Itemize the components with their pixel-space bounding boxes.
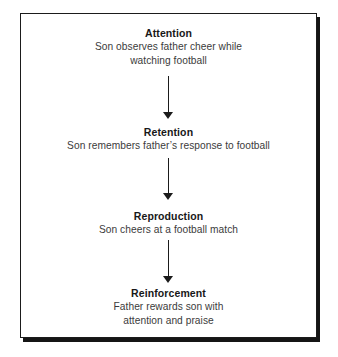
frame-shadow-right (317, 17, 320, 341)
flow-step-retention: Retention Son remembers father’s respons… (22, 126, 315, 153)
arrow-shaft (168, 240, 170, 277)
flow-step-reinforcement: Reinforcement Father rewards son with at… (22, 287, 315, 327)
arrow-shaft (168, 76, 170, 113)
arrow-head (163, 276, 173, 283)
flow-step-reproduction-title: Reproduction (22, 210, 315, 223)
down-arrow-icon-3 (163, 240, 174, 284)
frame-shadow-bottom (23, 338, 320, 342)
flow-step-attention-title: Attention (22, 27, 315, 40)
flow-step-reinforcement-line-1: Father rewards son with (22, 300, 315, 314)
down-arrow-icon-1 (163, 76, 174, 120)
flow-step-attention-line-1: Son observes father cheer while (22, 40, 315, 54)
flow-step-attention-line-2: watching football (22, 54, 315, 68)
diagram-canvas: Attention Son observes father cheer whil… (0, 0, 338, 357)
arrow-head (163, 193, 173, 200)
flow-step-retention-line-1: Son remembers father’s response to footb… (22, 139, 315, 153)
flow-step-reproduction: Reproduction Son cheers at a football ma… (22, 210, 315, 237)
flow-step-retention-title: Retention (22, 126, 315, 139)
arrow-head (163, 112, 173, 119)
flow-step-reinforcement-title: Reinforcement (22, 287, 315, 300)
flow-step-reproduction-line-1: Son cheers at a football match (22, 223, 315, 237)
arrow-shaft (168, 158, 170, 194)
flow-step-reinforcement-line-2: attention and praise (22, 314, 315, 328)
flow-step-attention: Attention Son observes father cheer whil… (22, 27, 315, 67)
down-arrow-icon-2 (163, 158, 174, 201)
